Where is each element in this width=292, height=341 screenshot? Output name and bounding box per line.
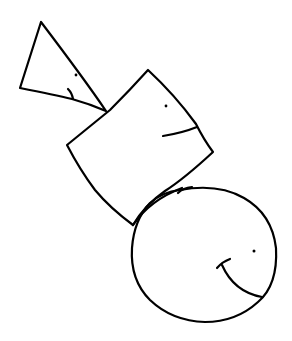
circle-face [132,187,276,322]
circle-outline [132,188,276,322]
square-mouth [163,127,197,136]
doodle-canvas [0,0,292,341]
circle-eye-icon [253,250,256,253]
doodle-svg [0,0,292,341]
square-eye-icon [165,105,168,108]
square-face [67,70,213,225]
circle-join-stroke [133,188,182,225]
triangle-outline [20,22,106,111]
square-outline [67,70,213,225]
triangle-face [20,22,106,111]
circle-mouth [217,259,262,297]
triangle-eye-icon [75,74,78,77]
